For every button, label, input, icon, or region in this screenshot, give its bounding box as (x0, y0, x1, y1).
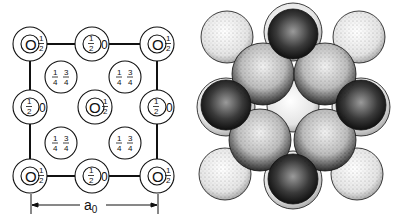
svg-text:4: 4 (128, 144, 133, 153)
svg-text:2: 2 (39, 176, 44, 185)
svg-text:1: 1 (89, 34, 94, 43)
svg-text:4: 4 (117, 144, 122, 153)
svg-text:1: 1 (53, 68, 58, 77)
svg-text:3: 3 (128, 134, 133, 143)
svg-text:4: 4 (64, 78, 69, 87)
unit-cell-projection: O 1 2 O 1 2 1 2 0 1 2 0 O 1 2 1 (13, 27, 174, 215)
svg-text:1: 1 (117, 134, 122, 143)
sphere-packing-model (197, 3, 390, 209)
svg-text:2: 2 (89, 176, 94, 185)
svg-text:O: O (25, 36, 37, 53)
svg-text:2: 2 (166, 176, 171, 185)
svg-text:4: 4 (128, 78, 133, 87)
crystal-structure-figure: O 1 2 O 1 2 1 2 0 1 2 0 O 1 2 1 (0, 0, 402, 218)
svg-text:3: 3 (64, 134, 69, 143)
svg-text:0: 0 (101, 170, 108, 184)
svg-text:0: 0 (166, 101, 173, 115)
svg-text:O: O (152, 168, 164, 185)
svg-text:0: 0 (39, 101, 46, 115)
svg-text:2: 2 (154, 107, 159, 116)
svg-text:O: O (152, 36, 164, 53)
svg-text:4: 4 (53, 78, 58, 87)
svg-text:3: 3 (64, 68, 69, 77)
lattice-parameter-label: a0 (84, 197, 98, 215)
svg-text:2: 2 (103, 107, 108, 116)
svg-text:1: 1 (89, 166, 94, 175)
svg-text:1: 1 (103, 97, 108, 106)
svg-text:1: 1 (39, 166, 44, 175)
svg-text:1: 1 (39, 34, 44, 43)
svg-text:2: 2 (39, 44, 44, 53)
svg-text:1: 1 (117, 68, 122, 77)
svg-text:1: 1 (166, 166, 171, 175)
svg-text:1: 1 (154, 97, 159, 106)
svg-text:O: O (25, 168, 37, 185)
svg-text:O: O (89, 99, 101, 116)
svg-text:2: 2 (27, 107, 32, 116)
svg-text:3: 3 (128, 68, 133, 77)
svg-text:4: 4 (53, 144, 58, 153)
svg-text:2: 2 (89, 44, 94, 53)
svg-text:0: 0 (101, 38, 108, 52)
svg-text:1: 1 (53, 134, 58, 143)
svg-text:4: 4 (64, 144, 69, 153)
svg-text:1: 1 (27, 97, 32, 106)
svg-text:2: 2 (166, 44, 171, 53)
svg-text:4: 4 (117, 78, 122, 87)
svg-text:1: 1 (166, 34, 171, 43)
